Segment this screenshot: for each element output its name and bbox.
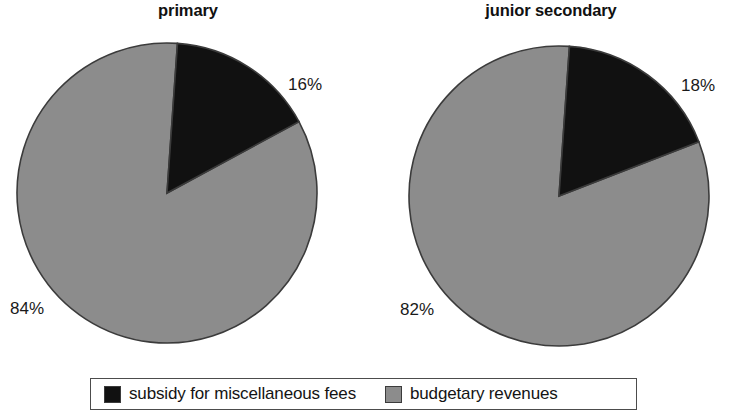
legend-swatch-gray-icon xyxy=(385,386,402,403)
slice-value-label-budgetary-primary: 84% xyxy=(10,299,44,319)
pie-graphic-primary xyxy=(0,0,370,370)
legend-swatch-black-icon xyxy=(104,386,121,403)
slice-value-label-subsidy-primary: 16% xyxy=(288,75,322,95)
pie-panel-junior-secondary: junior secondary 18% 82% xyxy=(369,0,739,370)
pie-chart-figure: primary 16% 84% junior secondary 18% 82%… xyxy=(0,0,739,417)
legend-item-budgetary: budgetary revenues xyxy=(385,384,558,404)
chart-legend: subsidy for miscellaneous fees budgetary… xyxy=(90,378,637,410)
pie-panel-primary: primary 16% 84% xyxy=(0,0,370,370)
legend-item-subsidy: subsidy for miscellaneous fees xyxy=(104,384,356,404)
slice-value-label-budgetary-junior: 82% xyxy=(400,300,434,320)
legend-label-subsidy: subsidy for miscellaneous fees xyxy=(129,384,356,404)
slice-value-label-subsidy-junior: 18% xyxy=(681,76,715,96)
legend-label-budgetary: budgetary revenues xyxy=(410,384,558,404)
